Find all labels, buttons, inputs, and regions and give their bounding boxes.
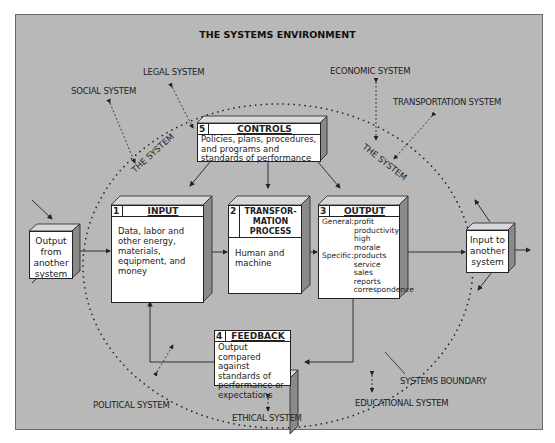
external-input-box: Input to another system: [466, 230, 509, 273]
feedback-box: 4FEEDBACK Output compared against standa…: [214, 330, 291, 386]
controls-title: CONTROLS: [209, 124, 320, 134]
label-systems-boundary: SYSTEMS BOUNDARY: [400, 376, 487, 386]
input-text: Data, labor and other energy, materials,…: [112, 217, 203, 280]
transformation-number: 2: [229, 206, 240, 237]
controls-text: Policies, plans, procedures, and program…: [198, 135, 320, 164]
output-general-item: high morale: [354, 235, 399, 252]
feedback-text: Output compared against standards of per…: [215, 342, 290, 401]
label-legal-system: LEGAL SYSTEM: [143, 67, 204, 77]
label-ethical-system: ETHICAL SYSTEM: [232, 413, 302, 423]
label-economic-system: ECONOMIC SYSTEM: [330, 66, 410, 76]
feedback-number: 4: [215, 331, 226, 341]
output-specific-label: Specific:: [322, 252, 354, 295]
output-title: OUTPUT: [330, 206, 399, 216]
input-box: 1INPUT Data, labor and other energy, mat…: [111, 205, 204, 303]
diagram-title: THE SYSTEMS ENVIRONMENT: [0, 29, 555, 40]
label-transportation-system: TRANSPORTATION SYSTEM: [393, 97, 501, 107]
input-title: INPUT: [123, 206, 203, 216]
output-number: 3: [319, 206, 330, 216]
output-specific-item: correspondence: [354, 286, 414, 295]
controls-number: 5: [198, 124, 209, 134]
label-social-system: SOCIAL SYSTEM: [71, 86, 136, 96]
output-box: 3OUTPUT General: profitproductivityhigh …: [318, 205, 400, 299]
external-output-box: Output from another system: [29, 231, 73, 279]
label-political-system: POLITICAL SYSTEM: [93, 400, 170, 410]
transformation-box: 2TRANSFOR-MATION PROCESS Human and machi…: [228, 205, 302, 294]
transformation-text: Human and machine: [229, 238, 301, 272]
input-number: 1: [112, 206, 123, 216]
feedback-title: FEEDBACK: [226, 331, 290, 341]
controls-box: 5CONTROLS Policies, plans, procedures, a…: [197, 123, 321, 162]
transformation-title: TRANSFOR-MATION PROCESS: [240, 206, 301, 237]
output-general-label: General:: [322, 218, 354, 252]
label-educational-system: EDUCATIONAL SYSTEM: [355, 398, 449, 408]
